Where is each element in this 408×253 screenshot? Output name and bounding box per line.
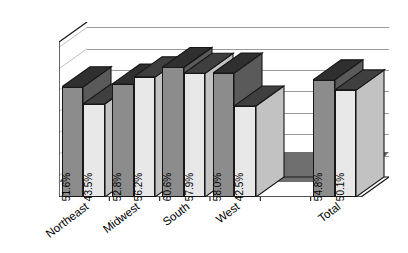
x-tick-label-text: West bbox=[214, 201, 242, 226]
bar-south-series2: 57.9% bbox=[184, 22, 206, 197]
bar-midwest-series2: 56.2% bbox=[134, 22, 156, 197]
x-tick-label-text: South bbox=[161, 201, 192, 228]
x-tick-label-south: South bbox=[65, 201, 192, 253]
x-tick-label-total: Total bbox=[216, 201, 343, 253]
bar-value-label: 58.0% bbox=[213, 173, 223, 201]
bar-total-series2: 50.1% bbox=[335, 22, 357, 197]
bar-value-label: 60.6% bbox=[163, 173, 173, 201]
bar-value-label: 50.1% bbox=[336, 173, 346, 201]
bar-value-label: 42.5% bbox=[235, 173, 245, 201]
bar-total-series1: 54.8% bbox=[313, 22, 335, 197]
y-axis: 0.0%10.0%20.0%30.0%40.0%50.0%60.0%70.0% bbox=[0, 0, 57, 253]
bar-midwest-series1: 52.8% bbox=[112, 22, 134, 197]
bar-northeast-series2: 43.5% bbox=[83, 22, 105, 197]
bar-west-series1: 58.0% bbox=[213, 22, 235, 197]
x-tick-label-west: West bbox=[115, 201, 242, 253]
bar-value-label: 54.8% bbox=[314, 173, 324, 201]
bar-value-label: 56.2% bbox=[134, 173, 144, 201]
bar-chart: 0.0%10.0%20.0%30.0%40.0%50.0%60.0%70.0% … bbox=[0, 0, 408, 253]
bars-layer: 51.6%43.5%52.8%56.2%60.6%57.9%58.0%42.5%… bbox=[59, 22, 389, 197]
x-tick-label-text: Total bbox=[316, 201, 342, 225]
bar-south-series1: 60.6% bbox=[162, 22, 184, 197]
bar-west-series2: 42.5% bbox=[234, 22, 256, 197]
bar-value-label: 57.9% bbox=[185, 173, 195, 201]
bar-northeast-series1: 51.6% bbox=[62, 22, 84, 197]
x-tick-label-text: Midwest bbox=[101, 201, 142, 236]
bar-value-label: 51.6% bbox=[62, 173, 72, 201]
bar-value-label: 52.8% bbox=[113, 173, 123, 201]
bar-value-label: 43.5% bbox=[84, 173, 94, 201]
plot-area: 51.6%43.5%52.8%56.2%60.6%57.9%58.0%42.5%… bbox=[59, 22, 389, 197]
